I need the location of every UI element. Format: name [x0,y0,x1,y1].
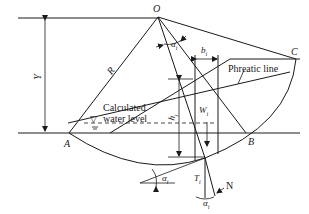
label-w-i: Wi [199,106,208,117]
line-o-c [158,17,296,59]
radial-to-slice [158,17,205,158]
water-level-symbol-icon: ▽ [90,115,97,124]
label-phreatic-line: Phreatic line [228,64,278,74]
label-alpha-force: αi [203,199,209,210]
label-o: O [153,4,160,14]
label-water-level-1: Calculated [103,103,146,113]
alpha-arrow-right [181,36,186,41]
label-y: Y [33,74,43,80]
slope-stability-diagram: O C A B R Y Phreatic line Calculated wat… [0,0,309,214]
label-water-level-2: water level [103,114,147,124]
diagram-canvas [0,0,309,214]
label-alpha-bottom: αi [162,174,168,185]
label-b-i: bi [201,46,207,57]
label-c: C [291,47,298,57]
label-alpha-top: αi [171,40,177,51]
label-n: N [226,181,233,191]
label-a: A [64,139,70,149]
alpha-arrow-left [156,45,163,47]
label-t-i: Ti [194,174,201,185]
normal-force-line [205,158,215,196]
label-b: B [248,137,254,147]
normal-arrow [217,188,224,193]
